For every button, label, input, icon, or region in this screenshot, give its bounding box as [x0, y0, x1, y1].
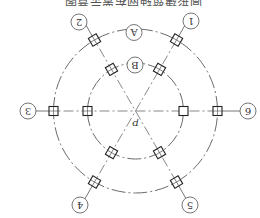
svg-text:A: A — [130, 27, 139, 38]
svg-text:B: B — [131, 60, 138, 71]
radial-grid-diagram: p A B 1 2 3 4 5 — [0, 0, 260, 218]
axis-bubble-1: 1 — [183, 13, 199, 29]
svg-text:6: 6 — [245, 106, 251, 117]
svg-text:4: 4 — [77, 200, 83, 211]
svg-text:1: 1 — [188, 16, 194, 27]
ring-bubble-B: B — [127, 57, 143, 73]
axis-bubble-5: 5 — [182, 197, 198, 213]
axis-bubble-3: 3 — [20, 103, 36, 119]
axis-bubble-2: 2 — [71, 14, 87, 30]
center-label: p — [132, 119, 139, 130]
svg-text:3: 3 — [25, 106, 31, 117]
ring-bubble-A: A — [126, 25, 142, 41]
axis-bubble-6: 6 — [240, 103, 256, 119]
axis-bubble-4: 4 — [72, 197, 88, 213]
svg-text:5: 5 — [187, 200, 193, 211]
svg-text:2: 2 — [76, 17, 82, 28]
